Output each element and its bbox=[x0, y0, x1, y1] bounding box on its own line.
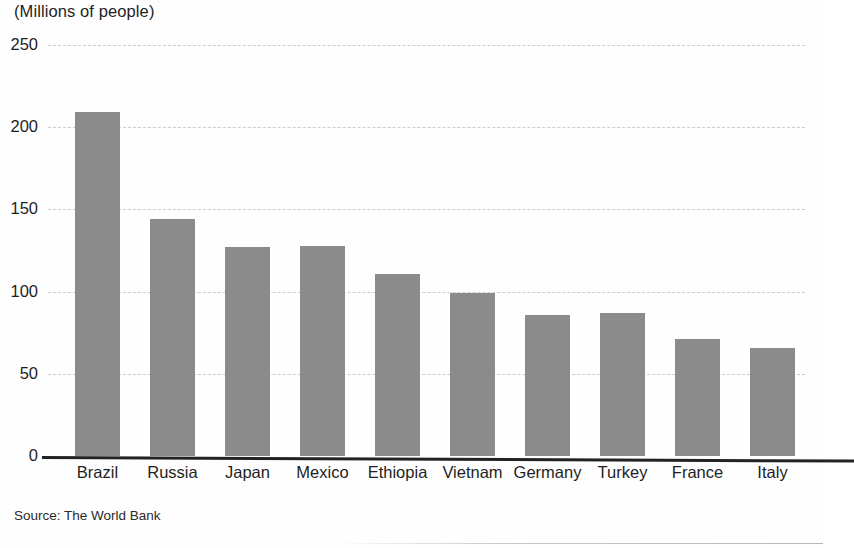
bar-turkey bbox=[600, 313, 645, 456]
bar-france bbox=[675, 339, 720, 456]
category-label-russia: Russia bbox=[147, 463, 197, 482]
bar-italy bbox=[750, 348, 795, 457]
category-label-mexico: Mexico bbox=[296, 463, 348, 482]
y-axis-tick-label: 150 bbox=[10, 200, 38, 219]
category-label-japan: Japan bbox=[225, 463, 270, 482]
bottom-divider bbox=[330, 543, 823, 544]
y-axis-tick-label: 0 bbox=[29, 446, 38, 465]
gridline bbox=[48, 209, 805, 210]
bar-ethiopia bbox=[375, 274, 420, 456]
bar-vietnam bbox=[450, 293, 495, 456]
source-note: Source: The World Bank bbox=[14, 508, 161, 523]
y-axis-tick-label: 250 bbox=[10, 35, 38, 54]
category-label-brazil: Brazil bbox=[77, 463, 118, 482]
category-label-vietnam: Vietnam bbox=[442, 463, 502, 482]
category-label-ethiopia: Ethiopia bbox=[368, 463, 428, 482]
y-axis-tick-label: 50 bbox=[20, 364, 38, 383]
gridline bbox=[48, 127, 805, 128]
x-axis-line bbox=[42, 456, 854, 462]
plot-area: 050100150200250 BrazilRussiaJapanMexicoE… bbox=[48, 45, 805, 456]
category-label-germany: Germany bbox=[514, 463, 582, 482]
bar-brazil bbox=[75, 112, 120, 456]
bar-mexico bbox=[300, 246, 345, 456]
chart-unit-label: (Millions of people) bbox=[14, 2, 154, 21]
bar-russia bbox=[150, 219, 195, 456]
category-label-turkey: Turkey bbox=[598, 463, 648, 482]
bar-germany bbox=[525, 315, 570, 456]
y-axis-tick-label: 100 bbox=[10, 282, 38, 301]
category-label-italy: Italy bbox=[757, 463, 787, 482]
y-axis-tick-label: 200 bbox=[10, 117, 38, 136]
category-label-france: France bbox=[672, 463, 723, 482]
bar-japan bbox=[225, 247, 270, 456]
gridline bbox=[48, 45, 805, 46]
